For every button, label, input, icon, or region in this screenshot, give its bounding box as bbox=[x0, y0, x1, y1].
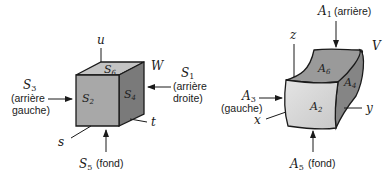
axis-t-line bbox=[130, 119, 147, 122]
annotation-S5: S5 (fond) bbox=[79, 130, 123, 172]
annotation-A5-text: (fond) bbox=[308, 157, 335, 169]
annotation-S1-line2: droite) bbox=[173, 92, 203, 104]
axis-u-label: u bbox=[97, 33, 105, 47]
annotation-A1-text: (arrière) bbox=[334, 5, 371, 17]
axis-x-line bbox=[266, 112, 286, 119]
axis-t-label: t bbox=[151, 115, 156, 129]
annotation-A5-symbol: A5 bbox=[289, 157, 304, 172]
volume-label-W: W bbox=[151, 59, 165, 73]
axis-z-label: z bbox=[289, 28, 297, 42]
left-box-figure: u S6 S2 S4 W t s S3 (arrière gauche) S1 … bbox=[11, 33, 207, 172]
axis-s-line bbox=[71, 126, 91, 138]
diagram-canvas: u S6 S2 S4 W t s S3 (arrière gauche) S1 … bbox=[0, 0, 391, 184]
annotation-S5-text: (fond) bbox=[96, 157, 123, 169]
axis-x-label: x bbox=[254, 113, 261, 127]
annotation-A3: A3 (gauche) bbox=[221, 89, 282, 114]
right-curved-figure: z A6 A2 A4 V y x A1 (arrière) A3 (gauche… bbox=[221, 4, 382, 172]
annotation-S5-symbol: S5 bbox=[79, 157, 92, 172]
axis-y-label: y bbox=[365, 101, 373, 115]
annotation-A1-symbol: A1 bbox=[317, 4, 332, 19]
annotation-A1: A1 (arrière) bbox=[317, 4, 371, 47]
annotation-S3-line1: (arrière bbox=[11, 92, 45, 104]
annotation-S3-line2: gauche) bbox=[12, 104, 50, 116]
axis-s-label: s bbox=[58, 135, 64, 149]
annotation-S3-symbol: S3 bbox=[23, 78, 36, 93]
annotation-A3-text: (gauche) bbox=[221, 102, 262, 114]
volume-label-V: V bbox=[372, 39, 382, 53]
annotation-S1-line1: (arrière bbox=[173, 80, 207, 92]
annotation-S1-symbol: S1 bbox=[181, 66, 194, 81]
annotation-S3: S3 (arrière gauche) bbox=[11, 78, 72, 116]
annotation-A5: A5 (fond) bbox=[289, 131, 335, 172]
